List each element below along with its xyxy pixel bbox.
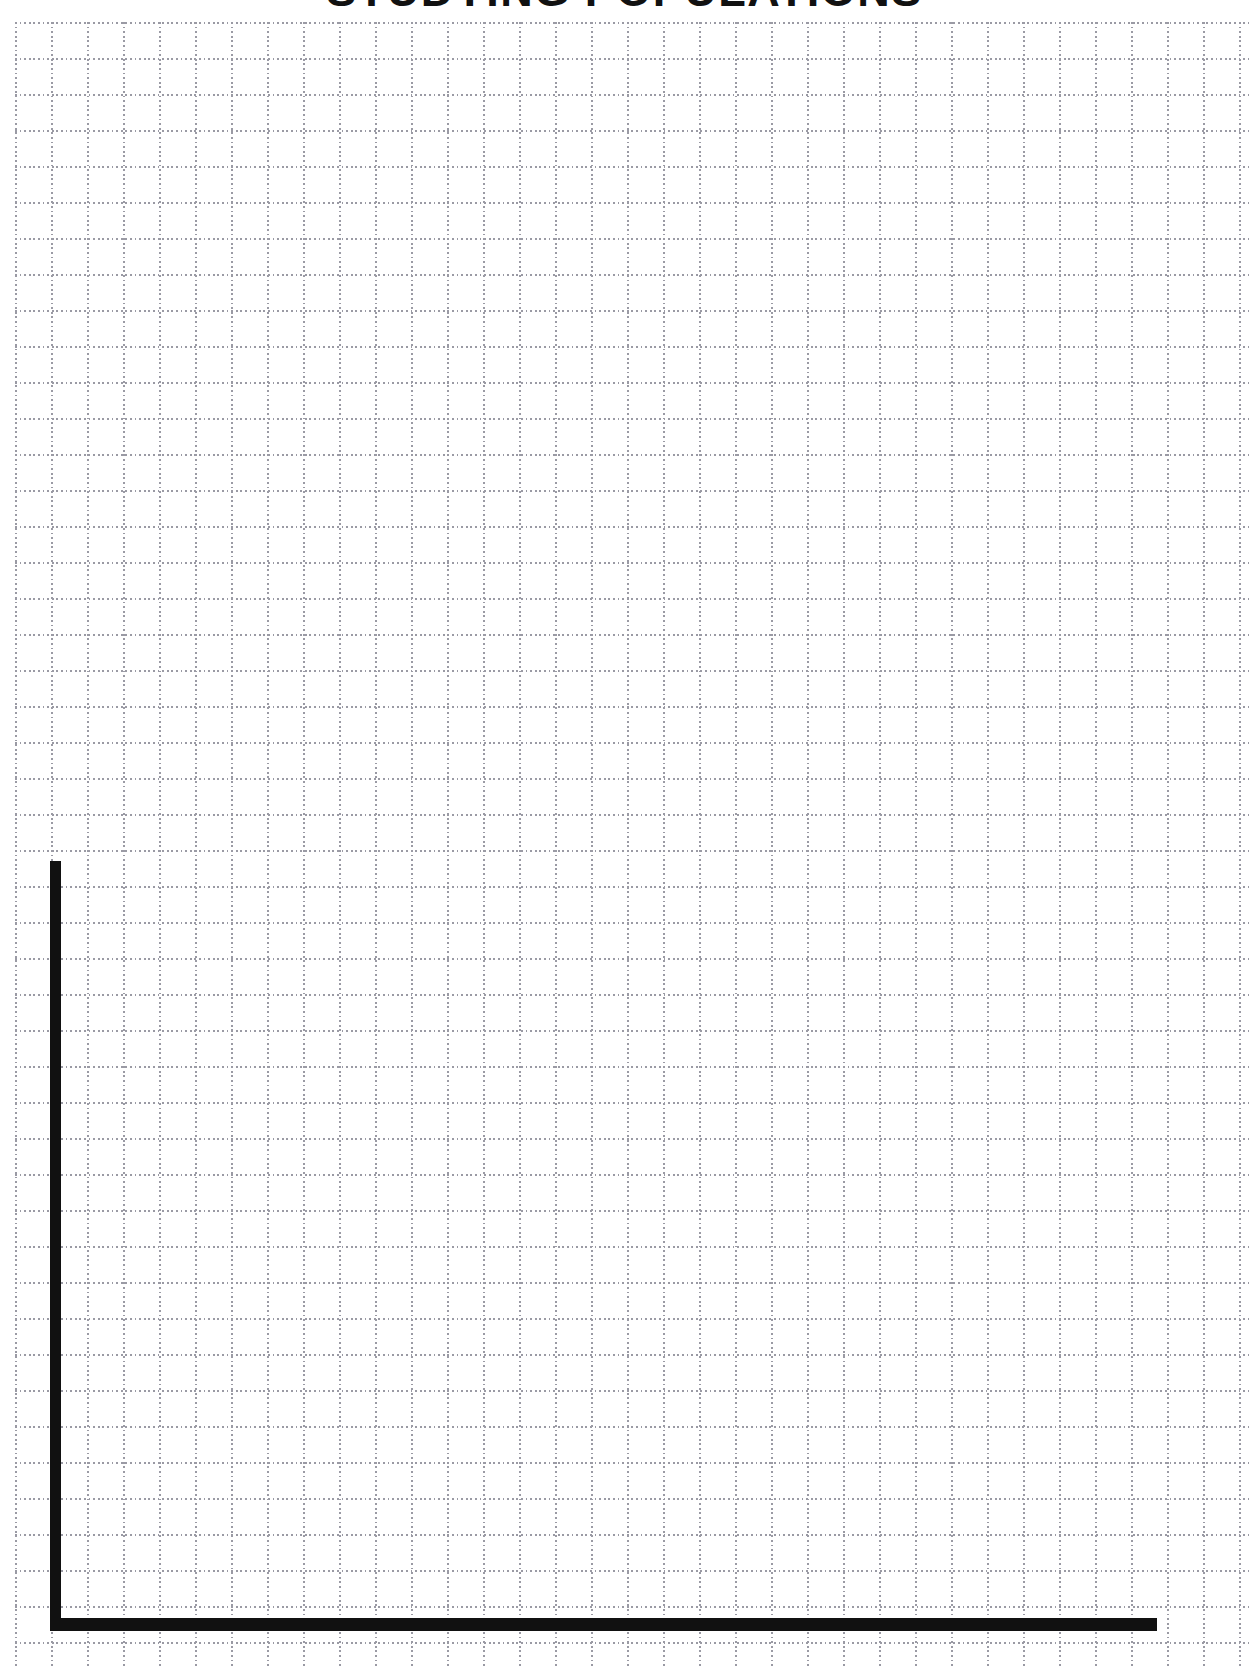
grid-line-vertical (1131, 22, 1133, 1666)
grid-line-vertical (303, 22, 305, 1666)
grid-line-horizontal (15, 634, 1249, 636)
grid-line-vertical (1239, 22, 1241, 1666)
grid-line-horizontal (15, 1498, 1249, 1500)
page-title: STUDYING POPULATIONS (0, 0, 1249, 13)
grid-line-horizontal (15, 166, 1249, 168)
grid-line-horizontal (15, 814, 1249, 816)
grid-line-horizontal (15, 526, 1249, 528)
grid-line-vertical (591, 22, 593, 1666)
grid-line-horizontal (15, 382, 1249, 384)
grid-line-vertical (159, 22, 161, 1666)
grid-line-vertical (735, 22, 737, 1666)
grid-line-horizontal (15, 886, 1249, 888)
grid-line-vertical (195, 22, 197, 1666)
grid-line-horizontal (15, 202, 1249, 204)
grid-line-vertical (519, 22, 521, 1666)
grid-line-horizontal (15, 58, 1249, 60)
grid-line-vertical (1167, 22, 1169, 1666)
grid-line-vertical (123, 22, 125, 1666)
grid-line-vertical (663, 22, 665, 1666)
grid-line-vertical (915, 22, 917, 1666)
page-title-clip: STUDYING POPULATIONS (0, 0, 1249, 13)
grid-line-horizontal (15, 1282, 1249, 1284)
grid-line-horizontal (15, 1138, 1249, 1140)
grid-line-horizontal (15, 1606, 1249, 1608)
grid-line-horizontal (15, 1426, 1249, 1428)
grid-line-horizontal (15, 1210, 1249, 1212)
grid-line-horizontal (15, 1102, 1249, 1104)
grid-line-horizontal (15, 310, 1249, 312)
grid-line-horizontal (15, 418, 1249, 420)
grid-line-horizontal (15, 670, 1249, 672)
grid-line-vertical (627, 22, 629, 1666)
grid-line-horizontal (15, 1030, 1249, 1032)
grid-line-vertical (699, 22, 701, 1666)
grid-line-horizontal (15, 1642, 1249, 1644)
grid-line-horizontal (15, 1318, 1249, 1320)
grid-line-vertical (411, 22, 413, 1666)
grid-line-vertical (87, 22, 89, 1666)
grid-line-vertical (267, 22, 269, 1666)
grid-line-horizontal (15, 562, 1249, 564)
grid-line-horizontal (15, 1570, 1249, 1572)
grid-line-vertical (339, 22, 341, 1666)
grid-line-vertical (771, 22, 773, 1666)
grid-line-vertical (879, 22, 881, 1666)
grid-line-vertical (15, 22, 17, 1666)
grid-line-horizontal (15, 238, 1249, 240)
grid-line-vertical (51, 22, 53, 1666)
grid-line-horizontal (15, 490, 1249, 492)
grid-line-horizontal (15, 778, 1249, 780)
grid-line-horizontal (15, 1462, 1249, 1464)
grid-line-vertical (843, 22, 845, 1666)
grid-line-horizontal (15, 1246, 1249, 1248)
grid-line-horizontal (15, 1066, 1249, 1068)
grid-line-horizontal (15, 598, 1249, 600)
grid-line-horizontal (15, 1354, 1249, 1356)
grid-line-vertical (1203, 22, 1205, 1666)
grid-line-vertical (483, 22, 485, 1666)
grid-line-horizontal (15, 994, 1249, 996)
grid-line-horizontal (15, 22, 1249, 24)
grid-line-vertical (231, 22, 233, 1666)
grid-line-horizontal (15, 130, 1249, 132)
grid-line-horizontal (15, 1174, 1249, 1176)
worksheet-page: STUDYING POPULATIONS (0, 0, 1249, 1673)
grid-line-horizontal (15, 1534, 1249, 1536)
grid-line-horizontal (15, 922, 1249, 924)
grid-line-vertical (1059, 22, 1061, 1666)
grid-line-horizontal (15, 706, 1249, 708)
grid-line-vertical (807, 22, 809, 1666)
grid-line-vertical (1095, 22, 1097, 1666)
grid-line-vertical (447, 22, 449, 1666)
grid-line-horizontal (15, 850, 1249, 852)
graph-grid (15, 22, 1249, 1666)
grid-line-horizontal (15, 742, 1249, 744)
grid-line-vertical (951, 22, 953, 1666)
grid-line-vertical (375, 22, 377, 1666)
grid-line-vertical (987, 22, 989, 1666)
grid-line-horizontal (15, 94, 1249, 96)
grid-line-vertical (1023, 22, 1025, 1666)
grid-line-horizontal (15, 346, 1249, 348)
grid-line-horizontal (15, 1390, 1249, 1392)
grid-line-horizontal (15, 274, 1249, 276)
grid-line-horizontal (15, 958, 1249, 960)
grid-line-vertical (555, 22, 557, 1666)
grid-line-horizontal (15, 454, 1249, 456)
